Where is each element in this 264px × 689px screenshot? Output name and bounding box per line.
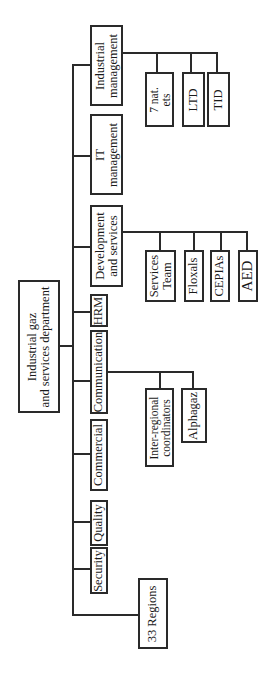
dept-label: Industrial management: [93, 34, 119, 98]
trunk-line: [72, 64, 74, 616]
unit-label: Services Team: [147, 255, 173, 297]
unit-ltd: LTD: [182, 72, 205, 127]
unit-label: Floxals: [187, 258, 200, 295]
unit-label: Alphagaz: [187, 392, 200, 440]
dept-it-management: IT management: [90, 114, 123, 195]
regions-box: 33 Regions: [138, 578, 168, 649]
unit-label: CEPIAs: [213, 256, 226, 297]
dept-industrial-management: Industrial management: [90, 25, 123, 106]
dept-label: Development and services: [93, 212, 119, 279]
dept-quality: Quality: [90, 500, 108, 546]
dept-hrm: HRM: [90, 294, 108, 327]
connector-33-regions: [72, 614, 139, 616]
unit-services-team: Services Team: [145, 250, 176, 302]
connector-it-management: [72, 155, 91, 157]
dept-commercial: Commercial: [90, 419, 108, 491]
unit-inter-regional-coordinators: Inter-regional coordinators: [145, 388, 174, 467]
unit-label: AED: [240, 261, 256, 292]
unit-floxals: Floxals: [184, 250, 204, 302]
unit-label: Inter-regional coordinators: [147, 396, 171, 459]
regions-label: 33 Regions: [146, 585, 159, 642]
connector-tid: [216, 52, 218, 73]
unit-aed: AED: [238, 250, 258, 302]
dept-communication: Communication: [90, 330, 108, 414]
dept-security: Security: [90, 547, 108, 594]
root-connector: [59, 345, 73, 347]
communication-children-bar: [107, 371, 194, 373]
connector-alphagaz: [192, 371, 194, 389]
root-label: Industrial gaz and services department: [26, 286, 52, 407]
dept-label: Commercial: [92, 424, 105, 486]
connector-floxals: [193, 231, 195, 251]
unit-7-nat-ets: 7 nat. ets: [145, 72, 174, 127]
dept-label: IT management: [93, 123, 119, 187]
dept-label: HRM: [92, 296, 105, 324]
connector-communication: [72, 380, 91, 382]
root-box-industrial-gaz-services: Industrial gaz and services department: [18, 280, 60, 413]
connector-7-nat-ets: [156, 52, 158, 73]
unit-tid: TID: [207, 72, 230, 127]
unit-cepias: CEPIAs: [210, 250, 230, 302]
unit-alphagaz: Alphagaz: [181, 388, 207, 443]
connector-development-services: [72, 246, 91, 248]
development-children-bar: [122, 231, 248, 233]
connector-ltd: [190, 52, 192, 73]
industrial-children-bar: [122, 52, 218, 54]
connector-industrial-management: [72, 64, 91, 66]
dept-label: Quality: [92, 504, 105, 542]
unit-label: TID: [212, 89, 225, 110]
dept-label: Communication: [92, 332, 105, 413]
connector-hrm: [72, 311, 91, 313]
connector-quality: [72, 521, 91, 523]
unit-label: LTD: [187, 88, 200, 111]
org-chart: Industrial gaz and services department I…: [0, 0, 264, 689]
connector-security: [72, 568, 91, 570]
connector-aed: [246, 231, 248, 251]
dept-development-services: Development and services: [90, 205, 123, 287]
dept-label: Security: [92, 550, 105, 592]
connector-services-team: [159, 231, 161, 251]
unit-label: 7 nat. ets: [147, 87, 171, 113]
connector-inter-regional: [159, 371, 161, 389]
connector-commercial: [72, 453, 91, 455]
connector-cepias: [220, 231, 222, 251]
